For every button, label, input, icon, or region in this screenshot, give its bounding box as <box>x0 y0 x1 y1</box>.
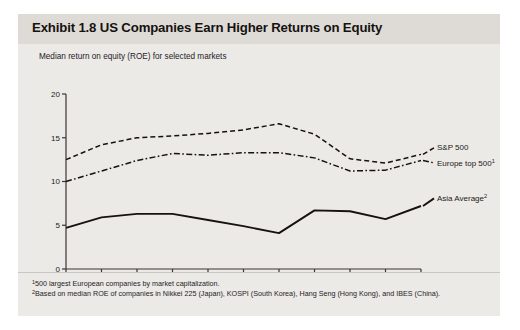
series-line-europe-top-500 <box>66 153 421 182</box>
legend-connector-2 <box>423 161 434 163</box>
legend-connector-3 <box>423 198 434 206</box>
footnote-divider <box>18 272 500 273</box>
series-line-asia-average <box>66 206 421 233</box>
series-line-s-p-500 <box>66 124 421 163</box>
footnote-marker: 2 <box>32 290 35 296</box>
y-axis-tick-label: 10 <box>51 177 60 186</box>
legend-label-europe-top-500: Europe top 5001 <box>437 158 495 168</box>
footnote-2: 2Based on median ROE of companies in Nik… <box>32 289 488 299</box>
y-axis-tick-label: 20 <box>51 90 60 99</box>
legend-marker: 2 <box>484 193 487 199</box>
legend-connector-1 <box>423 148 434 155</box>
footnotes-block: 1500 largest European companies by marke… <box>32 279 488 300</box>
legend-label-asia-average: Asia Average2 <box>437 193 487 203</box>
chart-svg: 05101520199319951997199920012003S&P 500E… <box>18 14 500 274</box>
footnote-1: 1500 largest European companies by marke… <box>32 279 488 289</box>
footnote-marker: 1 <box>32 279 35 285</box>
y-axis-tick-label: 15 <box>51 134 60 143</box>
chart-plot-area: 05101520199319951997199920012003S&P 500E… <box>18 14 500 316</box>
legend-marker: 1 <box>492 158 495 164</box>
legend-label-s-p-500: S&P 500 <box>437 143 469 152</box>
exhibit-panel: Exhibit 1.8 US Companies Earn Higher Ret… <box>18 14 500 316</box>
y-axis-tick-label: 5 <box>56 221 61 230</box>
